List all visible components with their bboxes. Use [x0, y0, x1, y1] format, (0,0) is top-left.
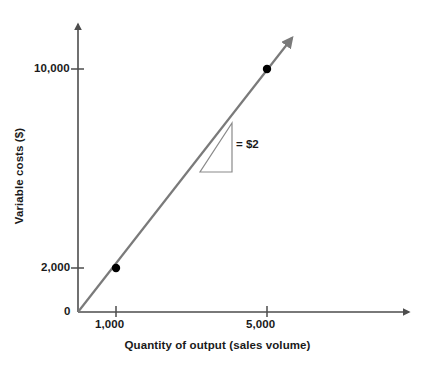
x-axis-tick-label-5000: 5,000 — [246, 318, 275, 330]
data-point-5000-10000 — [263, 65, 271, 73]
slope-annotation-label: = $2 — [236, 138, 259, 150]
slope-triangle — [200, 123, 232, 172]
origin-label: 0 — [64, 305, 71, 317]
x-axis-title: Quantity of output (sales volume) — [0, 339, 435, 351]
y-axis-tick-label-2000: 2,000 — [41, 261, 70, 273]
y-axis-title: Variable costs ($) — [11, 106, 27, 246]
x-axis-tick-label-1000: 1,000 — [95, 318, 124, 330]
data-point-1000-2000 — [112, 264, 120, 272]
variable-cost-chart: 10,000 2,000 0 1,000 5,000 Variable cost… — [0, 0, 435, 367]
variable-cost-line — [78, 38, 292, 312]
y-axis-title-text: Variable costs ($) — [13, 128, 25, 224]
y-axis-tick-label-10000: 10,000 — [34, 62, 70, 74]
